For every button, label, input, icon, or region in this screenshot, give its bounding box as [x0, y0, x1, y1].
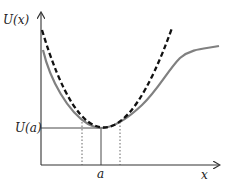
x-axis-label: x — [201, 168, 208, 182]
minimum-value-label: U(a) — [15, 121, 42, 135]
potential-energy-curve — [43, 46, 219, 128]
minimum-position-label: a — [97, 167, 104, 181]
y-axis-label: U(x) — [3, 13, 30, 27]
harmonic-approximation-curve — [42, 28, 172, 128]
potential-energy-diagram: U(x) U(a) a x — [0, 0, 228, 186]
